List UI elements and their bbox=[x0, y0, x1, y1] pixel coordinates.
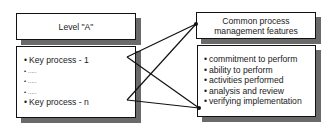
connector-line bbox=[127, 100, 199, 108]
connector-dot bbox=[194, 22, 198, 26]
connector-lines bbox=[0, 0, 335, 130]
connector-line bbox=[127, 24, 196, 57]
connector-line bbox=[127, 24, 196, 100]
connector-dot bbox=[197, 106, 201, 110]
connector-line bbox=[127, 57, 199, 108]
